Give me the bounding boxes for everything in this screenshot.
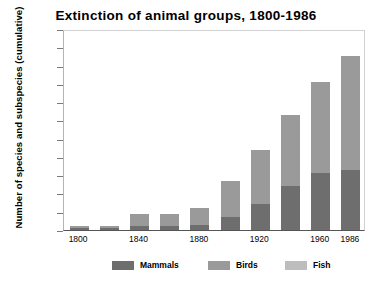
bar-segment-mammals xyxy=(221,217,240,230)
chart-title: Extinction of animal groups, 1800-1986 xyxy=(0,8,372,23)
bar-segment-mammals xyxy=(70,228,89,230)
x-axis-tick-label: 1880 xyxy=(189,234,208,244)
legend-item-birds: Birds xyxy=(208,260,258,270)
bar-segment-birds xyxy=(311,82,330,173)
legend-label-fish: Fish xyxy=(313,260,330,270)
y-axis-title: Number of species and subspecies (cumula… xyxy=(13,19,24,229)
plot-area xyxy=(63,30,365,231)
bar-segment-mammals xyxy=(100,228,119,230)
legend-item-fish: Fish xyxy=(285,260,330,270)
x-axis-tick-label: 1800 xyxy=(69,234,88,244)
legend-swatch-mammals xyxy=(112,261,134,270)
bar-1880 xyxy=(190,208,209,230)
bar-1860 xyxy=(160,214,179,230)
bar-1840 xyxy=(130,214,149,230)
bar-segment-mammals xyxy=(130,226,149,230)
bar-segment-mammals xyxy=(281,186,300,230)
bar-segment-birds xyxy=(221,181,240,218)
legend-label-mammals: Mammals xyxy=(140,260,179,270)
legend-swatch-fish xyxy=(285,261,307,270)
bar-segment-birds xyxy=(160,214,179,227)
bar-segment-birds xyxy=(130,214,149,227)
x-axis-tick-label: 1840 xyxy=(129,234,148,244)
legend-item-mammals: Mammals xyxy=(112,260,179,270)
bar-segment-birds xyxy=(281,115,300,186)
y-axis-tick-mark xyxy=(57,231,63,232)
bar-1940 xyxy=(281,115,300,230)
bar-1820 xyxy=(100,226,119,230)
x-axis-tick-label: 1986 xyxy=(340,234,359,244)
bar-segment-mammals xyxy=(311,173,330,230)
bar-1960 xyxy=(311,82,330,230)
bar-segment-mammals xyxy=(251,204,270,230)
bar-1986 xyxy=(341,56,360,230)
bar-segment-birds xyxy=(190,208,209,224)
bar-1920 xyxy=(251,150,270,230)
bar-segment-birds xyxy=(341,56,360,169)
bar-segment-mammals xyxy=(160,226,179,230)
legend-swatch-birds xyxy=(208,261,230,270)
bar-1800 xyxy=(70,226,89,230)
bar-segment-mammals xyxy=(341,170,360,230)
legend-label-birds: Birds xyxy=(236,260,258,270)
x-axis-tick-label: 1960 xyxy=(310,234,329,244)
bar-segment-mammals xyxy=(190,225,209,230)
x-axis-tick-label: 1920 xyxy=(250,234,269,244)
chart-legend: MammalsBirdsFish xyxy=(0,260,372,274)
bar-segment-birds xyxy=(251,150,270,205)
bar-1900 xyxy=(221,181,240,230)
extinction-bar-chart: Extinction of animal groups, 1800-1986 N… xyxy=(0,0,372,284)
